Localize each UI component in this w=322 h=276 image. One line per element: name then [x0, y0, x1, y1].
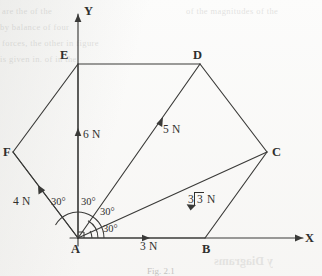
angle-label-ab-ac: 30°	[103, 223, 118, 234]
angle-arcs	[56, 212, 105, 238]
angle-label-ad-ae: 30°	[81, 196, 96, 207]
sqrt-expression: 33	[188, 193, 204, 205]
segment-CD	[200, 64, 267, 152]
vertex-label-f: F	[3, 145, 11, 160]
sqrt-radicand: 3	[194, 192, 203, 205]
vertex-label-b: B	[202, 242, 210, 257]
force-label-af: 4 N	[13, 195, 31, 207]
angle-label-ac-ad: 30°	[100, 206, 115, 217]
segment-EF	[13, 64, 78, 152]
angle-label-ae-af: 30°	[51, 196, 66, 207]
vertex-label-e: E	[60, 48, 68, 63]
vertex-label-a: A	[71, 242, 80, 257]
polygon-outline	[13, 64, 267, 238]
force-label-ad: 5 N	[163, 123, 181, 135]
force-label-ac: 33 N	[188, 193, 216, 205]
vertex-label-c: C	[272, 145, 281, 160]
figure-caption: Fig. 2.1	[0, 266, 322, 276]
diagram-canvas	[0, 0, 322, 276]
force-label-ae: 6 N	[83, 128, 101, 140]
axis-label-y: Y	[84, 4, 93, 19]
axis-label-x: X	[305, 231, 314, 246]
force-label-ab: 3 N	[140, 240, 158, 252]
vertex-label-d: D	[193, 48, 202, 63]
sqrt-unit: N	[207, 193, 216, 205]
force-diagram-figure: are the of the by balance of four forces…	[0, 0, 322, 276]
vector-AD-5N	[78, 64, 200, 238]
